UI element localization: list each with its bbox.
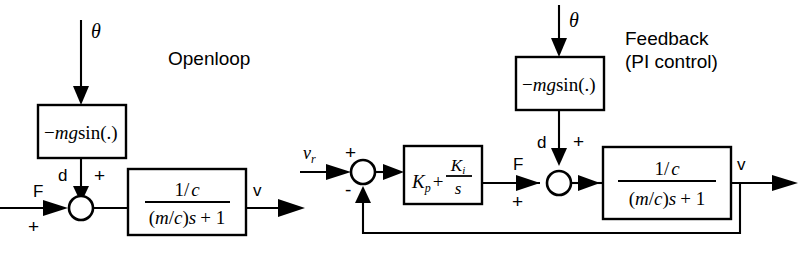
openloop-theta-label: θ — [91, 20, 101, 42]
openloop-sum-plus-force: + — [28, 216, 39, 237]
feedback-sum2-to-plant — [571, 175, 603, 191]
feedback-sum1-to-controller-arrowhead — [383, 164, 404, 180]
feedback-theta-input: θ — [551, 5, 579, 57]
feedback-summing-junction-2 — [547, 171, 571, 195]
feedback-output-arrowhead — [772, 175, 798, 191]
feedback-sum2-to-plant-arrowhead — [578, 175, 600, 191]
block-diagram-figure: θ −mgsin(.) d + F + — [0, 0, 807, 254]
openloop-theta-arrowhead — [73, 86, 89, 105]
openloop-d-label: d — [58, 166, 67, 185]
feedback-sum1-plus-reference: + — [345, 142, 356, 163]
openloop-caption: Openloop — [168, 48, 250, 69]
openloop-gravity-block-expression: −mgsin(.) — [44, 122, 118, 144]
feedback-plant-block: 1/c (m/c)s+ 1 — [603, 147, 731, 219]
feedback-plant-numerator: 1/c — [654, 158, 680, 179]
openloop-output: v — [246, 181, 305, 217]
feedback-theta-label: θ — [569, 9, 579, 31]
feedback-reference-input: vr + — [300, 142, 356, 180]
feedback-gravity-block-expression: −mgsin(.) — [522, 74, 596, 96]
feedback-sum1-to-controller — [375, 164, 404, 180]
feedback-v-label: v — [737, 155, 746, 174]
openloop-theta-input: θ — [73, 20, 101, 105]
feedback-controller-to-sum2: F + — [482, 155, 540, 212]
feedback-F-label: F — [513, 155, 523, 174]
feedback-controller-s: s — [455, 179, 462, 198]
feedback-vr-arrowhead — [326, 164, 351, 180]
feedback-controller-block: Kp+ Ki s — [404, 146, 482, 204]
feedback-disturbance-path: d + — [537, 110, 584, 166]
openloop-plant-block: 1/c (m/c)s+ 1 — [128, 169, 246, 235]
feedback-return-arrowhead — [355, 186, 371, 203]
openloop-F-label: F — [33, 182, 43, 201]
openloop-plant-denominator: (m/c)s+ 1 — [149, 207, 225, 229]
feedback-plant-denominator: (m/c)s+ 1 — [629, 188, 705, 210]
diagram-canvas: θ −mgsin(.) d + F + — [0, 0, 807, 254]
feedback-caption-line2: (PI control) — [625, 51, 718, 72]
feedback-group: Feedback (PI control) θ −mgsin(.) d + — [300, 5, 798, 233]
openloop-sum-plus-disturbance: + — [94, 165, 105, 186]
feedback-vr-label: vr — [303, 143, 316, 166]
openloop-group: θ −mgsin(.) d + F + — [0, 20, 305, 237]
openloop-force-input: F + — [0, 182, 68, 237]
openloop-gravity-block: −mgsin(.) — [38, 105, 126, 158]
openloop-output-arrowhead — [278, 199, 305, 217]
feedback-caption-line1: Feedback — [625, 28, 709, 49]
feedback-summing-junction-1 — [351, 160, 375, 184]
feedback-sum2-plus-force: + — [512, 191, 523, 212]
feedback-d-label: d — [537, 133, 546, 152]
openloop-summing-junction — [69, 196, 93, 220]
feedback-sum1-minus-feedback: - — [345, 179, 351, 200]
feedback-F-arrowhead — [516, 175, 540, 191]
openloop-v-label: v — [253, 181, 262, 200]
feedback-sum2-plus-disturbance: + — [573, 131, 584, 152]
feedback-theta-arrowhead — [551, 38, 567, 57]
openloop-plant-numerator: 1/c — [174, 179, 200, 200]
feedback-d-arrowhead — [551, 148, 567, 166]
openloop-F-arrowhead — [43, 200, 68, 216]
feedback-gravity-block: −mgsin(.) — [516, 57, 604, 110]
